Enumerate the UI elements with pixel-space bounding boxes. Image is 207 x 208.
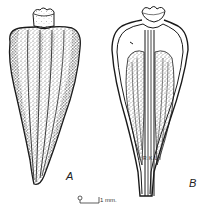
panel-a-drawing <box>10 8 81 184</box>
scale-bar <box>78 196 99 203</box>
scale-bar-label: 1 mm. <box>100 197 117 203</box>
panel-a-label: A <box>66 170 73 182</box>
panel-b-label: B <box>189 177 196 189</box>
panel-b-drawing <box>112 7 188 197</box>
illustration <box>0 0 207 208</box>
artist-signature: R.K.L. <box>143 155 160 161</box>
